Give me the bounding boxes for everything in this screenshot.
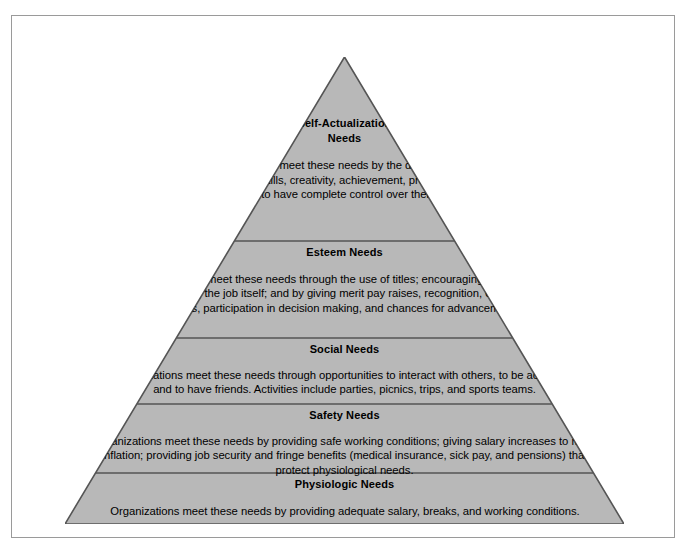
- tier-title-safety: Safety Needs: [71, 409, 618, 423]
- tier-body-safety: Organizations meet these needs by provid…: [85, 434, 605, 478]
- pyramid-tier-physiologic: Physiologic Needs Organizations meet the…: [65, 478, 624, 518]
- figure-frame: Self-Actualization Needs Organizations m…: [11, 15, 675, 538]
- tier-body-social: Organizations meet these needs through o…: [108, 368, 582, 397]
- tier-body-physiologic: Organizations meet these needs by provid…: [71, 504, 619, 519]
- tier-title-physiologic: Physiologic Needs: [71, 478, 618, 492]
- pyramid-tier-safety: Safety Needs Organizations meet these ne…: [65, 409, 624, 477]
- needs-pyramid-diagram: Self-Actualization Needs Organizations m…: [65, 57, 624, 524]
